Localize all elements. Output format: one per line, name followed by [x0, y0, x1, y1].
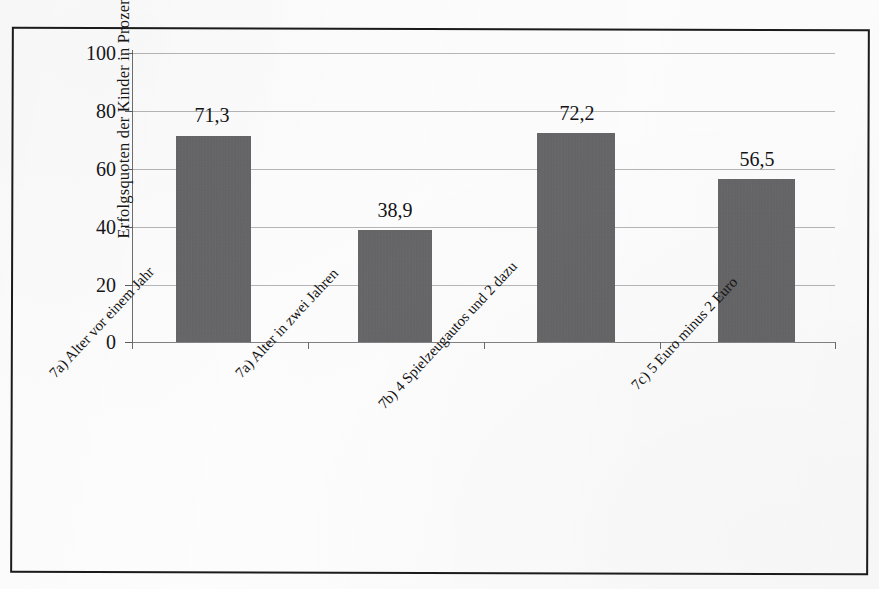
- gridline-100: [132, 53, 835, 54]
- chart-screenshot: Erfolgsquoten der Kinder in Prozent 100 …: [0, 0, 879, 589]
- y-tick-label-20: 20: [72, 275, 116, 295]
- y-tick-mark-40: [125, 227, 133, 228]
- x-tick-mark-4: [835, 342, 836, 349]
- y-tick-label-40: 40: [72, 217, 116, 237]
- bar-value-1: 71,3: [152, 105, 272, 125]
- y-tick-mark-80: [125, 111, 133, 112]
- x-tick-mark-1: [308, 342, 309, 349]
- y-tick-label-60: 60: [72, 159, 116, 179]
- bar-2[interactable]: [358, 230, 432, 342]
- x-tick-mark-0: [132, 342, 133, 349]
- bar-value-4: 56,5: [697, 149, 817, 169]
- bar-1[interactable]: [176, 136, 251, 342]
- bar-value-3: 72,2: [517, 103, 637, 123]
- y-tick-mark-60: [125, 169, 133, 170]
- x-tick-mark-2: [484, 342, 485, 349]
- y-tick-mark-100: [125, 53, 133, 54]
- bar-4[interactable]: [718, 179, 795, 342]
- y-tick-label-80: 80: [72, 101, 116, 121]
- y-axis-title: Erfolgsquoten der Kinder in Prozent: [114, 0, 134, 270]
- bar-value-2: 38,9: [335, 200, 455, 220]
- y-tick-label-100: 100: [72, 43, 116, 63]
- bar-3[interactable]: [537, 133, 615, 342]
